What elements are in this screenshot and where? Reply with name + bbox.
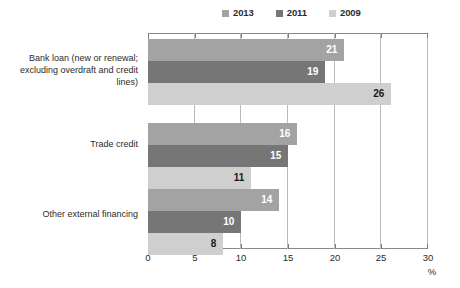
x-tick-5: 5	[192, 253, 197, 263]
chart-legend: 2013 2011 2009	[222, 5, 361, 21]
axis-unit-label: %	[428, 267, 436, 277]
bar-2009[interactable]: 26	[148, 83, 391, 105]
bar-2011[interactable]: 15	[148, 145, 288, 167]
bar-value-label: 14	[261, 195, 272, 205]
tick-top-0	[148, 33, 149, 38]
bar-2013[interactable]: 16	[148, 123, 297, 145]
bar-2013[interactable]: 14	[148, 189, 279, 211]
legend-item-2011[interactable]: 2011	[276, 8, 307, 18]
category-label-other-external-financing: Other external financing	[0, 208, 138, 220]
x-tick-20: 20	[330, 253, 341, 263]
bar-value-label: 26	[373, 89, 384, 99]
legend-swatch-2011	[276, 10, 283, 17]
bar-value-label: 21	[326, 45, 337, 55]
x-tick-15: 15	[283, 253, 294, 263]
legend-label-2013: 2013	[233, 8, 254, 18]
bar-value-label: 10	[223, 217, 234, 227]
plot-area: 21192616151114108	[148, 33, 428, 249]
bar-value-label: 15	[270, 151, 281, 161]
tick-top-20	[335, 33, 336, 38]
category-label-bank-loan: Bank loan (new or renewal; excluding ove…	[0, 52, 138, 88]
bar-2009[interactable]: 8	[148, 233, 223, 255]
bar-2013[interactable]: 21	[148, 39, 344, 61]
bar-chart: 2013 2011 2009 Bank loan (new or renewal…	[0, 0, 460, 288]
bar-group: 211926	[148, 39, 428, 105]
tick-top-25	[381, 33, 382, 38]
bar-2011[interactable]: 19	[148, 61, 325, 83]
legend-item-2009[interactable]: 2009	[329, 8, 361, 18]
bar-2011[interactable]: 10	[148, 211, 241, 233]
bar-value-label: 8	[211, 239, 216, 249]
x-tick-10: 10	[236, 253, 247, 263]
tick-top-5	[195, 33, 196, 38]
category-label-trade-credit: Trade credit	[0, 138, 138, 150]
tick-top-30	[427, 33, 428, 38]
bar-2009[interactable]: 11	[148, 167, 251, 189]
legend-swatch-2009	[329, 10, 336, 17]
bar-group: 161511	[148, 123, 428, 189]
legend-item-2013[interactable]: 2013	[222, 8, 254, 18]
bar-value-label: 19	[307, 67, 318, 77]
x-tick-25: 25	[376, 253, 387, 263]
bar-value-label: 11	[234, 173, 244, 183]
tick-top-15	[288, 33, 289, 38]
legend-swatch-2013	[222, 10, 229, 17]
tick-top-10	[241, 33, 242, 38]
legend-label-2011: 2011	[287, 8, 307, 18]
bar-group: 14108	[148, 189, 428, 255]
bar-value-label: 16	[279, 129, 290, 139]
x-tick-0: 0	[145, 253, 150, 263]
legend-label-2009: 2009	[340, 8, 361, 18]
x-tick-30: 30	[423, 253, 434, 263]
